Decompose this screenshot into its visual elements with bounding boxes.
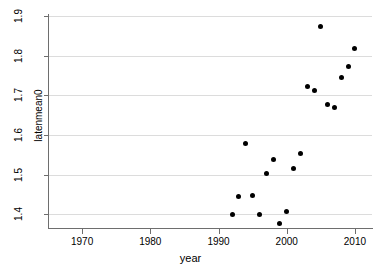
y-tick-label-1.5: 1.5 [14,158,24,192]
gridline-y-1.8 [48,56,372,57]
data-point [236,194,241,199]
x-tick-2010 [355,229,356,234]
y-tick-1.4 [44,214,49,215]
plot-area [48,14,372,228]
data-point [305,84,310,89]
y-tick-1.6 [44,135,49,136]
data-point [325,102,330,107]
y-axis-line [48,14,49,229]
data-point [277,221,282,226]
gridline-y-1.7 [48,95,372,96]
x-axis-line [48,228,373,229]
data-point [346,64,351,69]
gridline-y-1.9 [48,16,372,17]
data-point [243,141,248,146]
data-point [339,75,344,80]
x-tick-label-1980: 1980 [127,236,173,247]
data-point [250,193,255,198]
x-tick-1980 [150,229,151,234]
y-tick-label-1.6: 1.6 [14,118,24,152]
x-tick-label-1990: 1990 [196,236,242,247]
gridline-y-1.5 [48,175,372,176]
y-tick-1.9 [44,16,49,17]
y-tick-label-1.9: 1.9 [14,0,24,33]
x-tick-1970 [82,229,83,234]
data-point [291,166,296,171]
x-tick-1990 [219,229,220,234]
gridline-y-1.6 [48,135,372,136]
data-point [257,212,262,217]
data-point [312,88,317,93]
data-point [352,46,357,51]
x-tick-2000 [287,229,288,234]
y-tick-label-1.7: 1.7 [14,78,24,112]
y-tick-1.7 [44,95,49,96]
data-point [230,212,235,217]
data-point [271,157,276,162]
x-axis-title: year [0,252,381,264]
gridline-y-1.4 [48,214,372,215]
data-point [332,105,337,110]
scatter-plot-figure: 1.41.51.61.71.81.9 19701980199020002010 … [0,0,381,271]
data-point [318,24,323,29]
y-tick-label-1.4: 1.4 [14,197,24,231]
y-tick-1.5 [44,175,49,176]
data-point [264,171,269,176]
x-tick-label-2000: 2000 [264,236,310,247]
y-tick-label-1.8: 1.8 [14,39,24,73]
x-tick-label-1970: 1970 [59,236,105,247]
x-tick-label-2010: 2010 [332,236,378,247]
y-tick-1.8 [44,56,49,57]
y-axis-title: latenmean0 [33,56,44,176]
data-point [298,151,303,156]
